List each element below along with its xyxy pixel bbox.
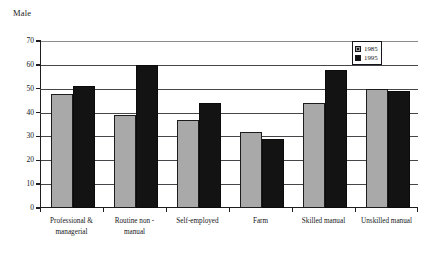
plot-area [40, 41, 418, 208]
legend-item-label: 1985 [364, 45, 378, 52]
bar [114, 115, 136, 208]
x-axis-tick [292, 207, 293, 212]
legend-swatch-icon [355, 46, 361, 52]
x-axis-tick [417, 207, 418, 212]
bar [51, 94, 73, 209]
bar [136, 65, 158, 208]
y-axis-tick [36, 136, 41, 137]
y-axis-tick-label: 10 [12, 180, 34, 188]
y-axis-tick [36, 112, 41, 113]
gridline [40, 160, 418, 161]
bar-group [114, 41, 158, 208]
y-axis-tick-label: 30 [12, 132, 34, 140]
y-axis-tick [36, 88, 41, 89]
y-axis-tick [36, 40, 41, 41]
y-axis-tick [36, 183, 41, 184]
x-axis-category-label-line: Unskilled manual [345, 216, 429, 227]
bar-group [240, 41, 284, 208]
legend-item-label: 1995 [364, 54, 378, 61]
chart-legend: 19851995 [352, 41, 382, 65]
y-axis-labels: 010203040506070 [10, 41, 34, 208]
y-axis-tick-label: 20 [12, 156, 34, 164]
gridline [40, 136, 418, 137]
bar [262, 139, 284, 208]
bar [303, 103, 325, 208]
x-axis-category-label-line: manual [93, 227, 177, 238]
y-axis-tick-label: 70 [12, 37, 34, 45]
y-axis-tick [36, 64, 41, 65]
bar-group [177, 41, 221, 208]
bar [325, 70, 347, 208]
bar [366, 89, 388, 208]
legend-item: 1995 [355, 53, 378, 62]
gridline [40, 89, 418, 90]
y-axis-tick-label: 0 [12, 204, 34, 212]
x-axis-tick [103, 207, 104, 212]
bar [388, 91, 410, 208]
bar [177, 120, 199, 208]
y-axis-tick [36, 160, 41, 161]
y-axis-tick-label: 50 [12, 85, 34, 93]
x-axis-tick [355, 207, 356, 212]
bar-group [366, 41, 410, 208]
x-axis-tick [166, 207, 167, 212]
bar-group [51, 41, 95, 208]
gridline [40, 113, 418, 114]
bar [73, 86, 95, 208]
legend-swatch-icon [355, 55, 361, 61]
chart-title: Male [13, 8, 31, 18]
bar [199, 103, 221, 208]
bar-chart: Male 010203040506070 Professional &manag… [0, 0, 436, 256]
legend-item: 1985 [355, 44, 378, 53]
bar-group [303, 41, 347, 208]
y-axis-tick-label: 60 [12, 61, 34, 69]
x-axis-category-label: Unskilled manual [345, 216, 429, 227]
bar [240, 132, 262, 208]
gridline [40, 184, 418, 185]
x-axis-tick [229, 207, 230, 212]
x-axis-tick [40, 207, 41, 212]
y-axis-tick-label: 40 [12, 109, 34, 117]
